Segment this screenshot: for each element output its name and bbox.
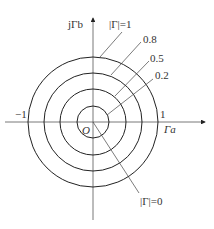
leader-line-0.5 bbox=[115, 61, 149, 96]
center-label: |Γ|=0 bbox=[140, 195, 163, 207]
horizontal-axis-label: Γa bbox=[163, 123, 176, 135]
circle-label-0.5: 0.5 bbox=[150, 52, 164, 64]
leader-line-0.8 bbox=[111, 42, 141, 75]
origin-label: O bbox=[82, 124, 90, 136]
circle-label-0.8: 0.8 bbox=[143, 33, 157, 45]
neg-one-label: −1 bbox=[15, 108, 27, 120]
leader-line-1 bbox=[100, 32, 122, 57]
circle-label-0.2: 0.2 bbox=[155, 69, 169, 81]
vertical-axis-label: jΓb bbox=[67, 18, 83, 30]
pos-one-label: 1 bbox=[160, 108, 166, 120]
gamma-plane-diagram: jΓb Γa O −1 1 |Γ|=1 0.8 0.5 0.2 |Γ|=0 bbox=[0, 0, 214, 229]
circle-label-1: |Γ|=1 bbox=[109, 18, 131, 30]
